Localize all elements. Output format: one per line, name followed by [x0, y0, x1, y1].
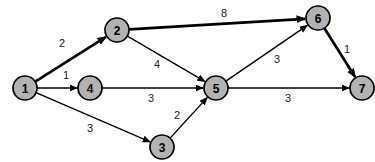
edge-weight-label-6-7: 1: [344, 43, 350, 55]
graph-node-6: 6: [306, 6, 330, 30]
edge-weight-label-5-7: 3: [285, 92, 291, 104]
node-label-3: 3: [159, 141, 166, 155]
edge-2-6: [129, 19, 305, 30]
graph-node-7: 7: [350, 76, 374, 100]
edge-6-7: [324, 28, 355, 77]
node-label-5: 5: [213, 82, 220, 96]
edge-1-2: [35, 37, 106, 82]
edge-weight-label-5-6: 3: [274, 53, 280, 65]
edge-2-5: [127, 36, 204, 81]
graph-node-1: 1: [13, 76, 37, 100]
edge-weight-label-1-2: 2: [59, 37, 65, 49]
graph-node-3: 3: [150, 135, 174, 159]
graph-node-5: 5: [204, 76, 228, 100]
directed-weighted-graph: 2138432331 1234567: [0, 0, 375, 162]
edge-weight-label-2-6: 8: [221, 7, 227, 19]
graph-node-4: 4: [78, 76, 102, 100]
edge-weight-label-1-3: 3: [87, 122, 93, 134]
node-label-6: 6: [315, 12, 322, 26]
edge-weight-label-4-5: 3: [148, 92, 154, 104]
graph-figure: 2138432331 1234567: [0, 0, 375, 162]
edge-weight-label-2-5: 4: [154, 58, 160, 70]
node-label-2: 2: [114, 24, 121, 38]
edge-weight-label-3-5: 2: [174, 109, 180, 121]
edge-weight-label-1-4: 1: [63, 69, 69, 81]
nodes-layer: 1234567: [13, 6, 374, 159]
node-label-1: 1: [22, 82, 29, 96]
node-label-4: 4: [87, 82, 94, 96]
graph-node-2: 2: [105, 18, 129, 42]
node-label-7: 7: [359, 82, 366, 96]
edge-5-6: [226, 25, 307, 81]
